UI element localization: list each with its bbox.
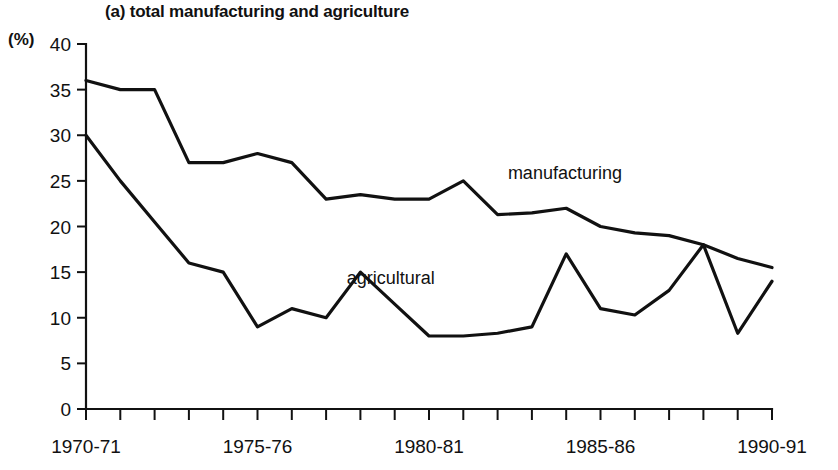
x-tick-label: 1985-86 bbox=[566, 436, 636, 457]
x-tick-label: 1990-91 bbox=[737, 436, 807, 457]
chart-figure: (a) total manufacturing and agriculture … bbox=[0, 0, 838, 470]
x-axis-ticks bbox=[86, 409, 772, 420]
series-label-agricultural: agricultural bbox=[347, 268, 435, 288]
series-label-manufacturing: manufacturing bbox=[508, 163, 622, 183]
x-tick-label: 1970-71 bbox=[51, 436, 121, 457]
y-tick-label: 10 bbox=[50, 308, 71, 329]
y-tick-label: 15 bbox=[50, 262, 71, 283]
y-tick-label: 20 bbox=[50, 217, 71, 238]
line-chart-plot: 0510152025303540 manufacturingagricultur… bbox=[0, 0, 838, 470]
y-tick-label: 35 bbox=[50, 80, 71, 101]
y-tick-label: 30 bbox=[50, 125, 71, 146]
axes bbox=[86, 44, 772, 409]
y-tick-label: 25 bbox=[50, 171, 71, 192]
x-axis-labels: 1970-711975-761980-811985-861990-91 bbox=[51, 436, 807, 457]
x-tick-label: 1975-76 bbox=[223, 436, 293, 457]
data-series-group bbox=[86, 81, 772, 337]
y-tick-label: 40 bbox=[50, 34, 71, 55]
series-line-manufacturing bbox=[86, 81, 772, 268]
y-axis-ticks: 0510152025303540 bbox=[50, 34, 86, 420]
y-tick-label: 5 bbox=[60, 353, 71, 374]
x-tick-label: 1980-81 bbox=[394, 436, 464, 457]
y-tick-label: 0 bbox=[60, 399, 71, 420]
series-annotations: manufacturingagricultural bbox=[347, 163, 622, 288]
